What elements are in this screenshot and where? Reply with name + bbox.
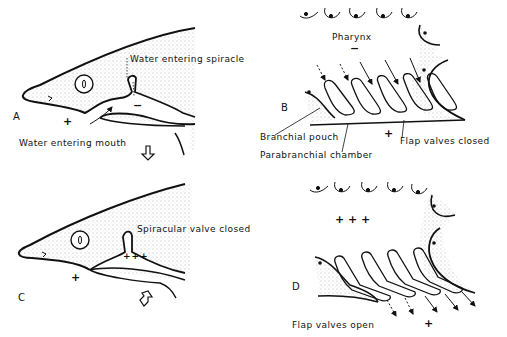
panel-c-letter: C <box>18 293 25 303</box>
panel-c-shark-head <box>19 184 192 306</box>
sign-minus: − <box>350 43 359 54</box>
panel-d-gills <box>310 182 475 316</box>
sign-plus: + <box>71 272 80 283</box>
label-pharynx: Pharynx <box>332 33 372 42</box>
label-spiracular-valve-closed: Spiracular valve closed <box>137 225 251 234</box>
sign-plus-three: +++ <box>123 252 149 261</box>
sign-plus: + <box>424 318 433 329</box>
sign-minus: − <box>133 100 142 111</box>
down-open-arrow-icon <box>142 146 154 160</box>
label-branchial-pouch: Branchial pouch <box>260 133 339 142</box>
panel-d-letter: D <box>292 282 300 292</box>
panel-b-letter: B <box>281 103 288 113</box>
up-open-arrow-icon <box>140 291 152 306</box>
label-flap-valves-open: Flap valves open <box>292 321 374 330</box>
label-flap-valves-closed: Flap valves closed <box>400 137 490 146</box>
label-parabranchial-chamber: Parabranchial chamber <box>260 151 373 160</box>
label-water-entering-mouth: Water entering mouth <box>19 139 126 148</box>
sign-plus: + <box>63 116 72 127</box>
label-water-entering-spiracle: Water entering spiracle <box>130 55 245 64</box>
sign-plus: + <box>384 128 393 139</box>
panel-b-gills <box>275 8 465 152</box>
sign-plus-three: + + + <box>335 214 370 225</box>
panel-a-letter: A <box>13 112 20 122</box>
diagram-canvas <box>0 0 507 337</box>
